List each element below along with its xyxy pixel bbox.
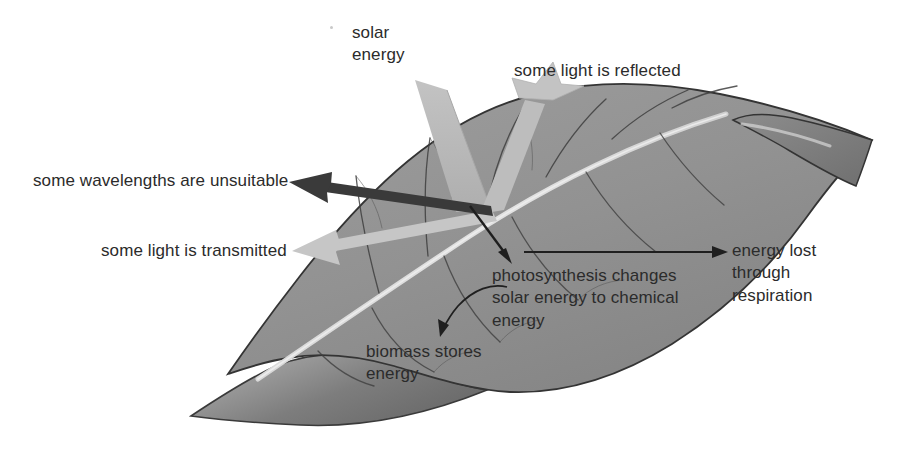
label-biomass-stores-energy: biomass stores energy [366,341,526,386]
unsuitable-arrow-head [289,172,332,203]
label-solar-energy: solar energy [352,22,472,67]
label-some-light-is-reflected: some light is reflected [514,60,744,82]
diagram-canvas: solar energy some light is reflected som… [0,0,898,451]
label-photosynthesis-changes-solar-energy-to-chemical-energy: photosynthesis changes solar energy to c… [492,265,692,332]
label-some-light-is-transmitted: some light is transmitted [101,240,316,262]
label-energy-lost-through-respiration: energy lost through respiration [732,240,852,307]
label-some-wavelengths-are-unsuitable: some wavelengths are unsuitable [33,170,293,192]
